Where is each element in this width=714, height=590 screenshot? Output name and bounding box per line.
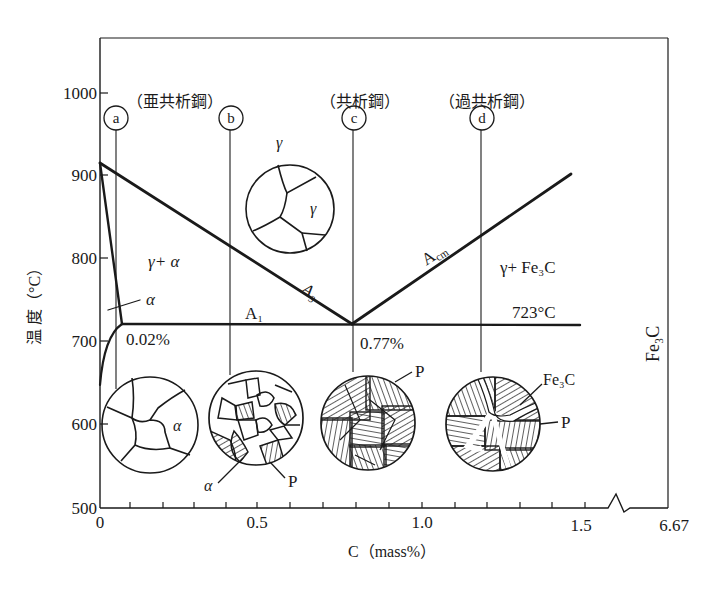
phase-diagram: 1000 900 800 700 600 500 温 度（°C） 0 0.5 1… [0,0,714,590]
x-tick-0.5: 0.5 [246,513,267,532]
microstructure-a [102,377,198,473]
microstructure-c [320,372,418,475]
label-gamma-grain: γ [310,200,317,218]
marker-c: c [351,110,358,126]
label-fe3c-vertical: Fe₃C [643,326,663,362]
austenite-microstructure [246,165,334,253]
y-tick-1000: 1000 [63,84,97,103]
label-p-b: P [288,472,297,491]
a1-line [122,324,580,325]
x-tick-1.0: 1.0 [411,513,432,532]
phase-labels: γ+ α α A₁ A₃ Acm γ+ Fe₃C 723°C 0.02% 0.7… [126,239,663,362]
label-alpha: α [146,290,156,309]
label-a3: A₃ [298,279,323,304]
x-tick-0: 0 [96,513,105,532]
label-a1: A₁ [245,304,263,323]
marker-d: d [478,110,486,126]
alpha-pointer [108,300,140,310]
label-0.77pct: 0.77% [360,334,404,353]
region-headers: （亜共析鋼） （共析鋼） （過共析鋼） [127,93,535,110]
y-tick-800: 800 [72,249,98,268]
label-0.02pct: 0.02% [126,330,170,349]
region-hypoeutectoid: （亜共析鋼） [127,93,223,110]
x-axis-title: C（mass%） [348,543,436,560]
label-p-d: P [561,413,570,432]
y-tick-600: 600 [72,415,98,434]
label-gamma-fe3c: γ+ Fe₃C [499,258,556,277]
label-gamma-top: γ [276,134,283,152]
marker-a: a [113,110,120,126]
label-alpha-b: α [204,477,213,494]
y-axis-labels: 1000 900 800 700 600 500 [63,84,97,518]
x-tick-6.67: 6.67 [659,516,689,535]
label-acm: Acm [418,239,451,270]
label-gamma-alpha: γ+ α [148,252,180,271]
acm-line [352,174,571,324]
label-p-c: P [415,362,424,381]
label-fe3c-d: Fe₃C [543,371,575,388]
microstructure-d [445,376,558,476]
y-axis-title: 温 度（°C） [26,260,43,345]
x-axis-labels: 0 0.5 1.0 1.5 6.67 [96,513,690,535]
alpha-solvus-upper [100,163,122,324]
label-alpha-a: α [173,417,182,434]
label-723c: 723°C [512,303,556,322]
y-tick-700: 700 [72,332,98,351]
x-tick-1.5: 1.5 [570,516,591,535]
y-tick-500: 500 [72,499,98,518]
marker-letters: a b c d [113,110,487,126]
y-tick-900: 900 [72,166,98,185]
alpha-solvus-lower [100,324,122,385]
marker-b: b [227,110,235,126]
x-axis-ticks [130,502,585,508]
microstructure-b [206,371,303,483]
